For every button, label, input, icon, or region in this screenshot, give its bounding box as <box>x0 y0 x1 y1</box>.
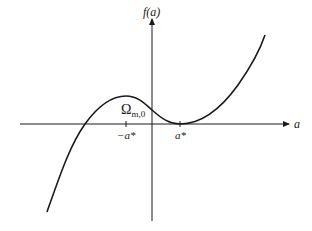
omega-subscript: m,0 <box>131 109 145 119</box>
tick-neg-label: −a* <box>117 130 135 141</box>
x-axis-label: a <box>294 118 300 130</box>
y-axis-label: f(a) <box>143 6 160 18</box>
diagram-canvas: f(a) a Ωm,0 −a* a* <box>0 0 312 231</box>
tick-pos-label: a* <box>175 130 186 141</box>
omega-m0-label: Ωm,0 <box>121 103 145 119</box>
omega-symbol: Ω <box>121 102 131 117</box>
function-plot <box>0 0 312 231</box>
